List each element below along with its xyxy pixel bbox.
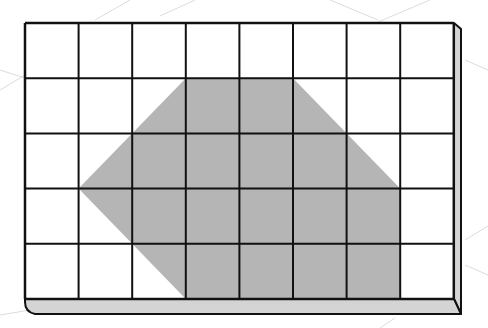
grid-diagram [0,0,488,328]
frame-bottom-edge [25,299,461,314]
diagram-canvas [0,0,488,328]
